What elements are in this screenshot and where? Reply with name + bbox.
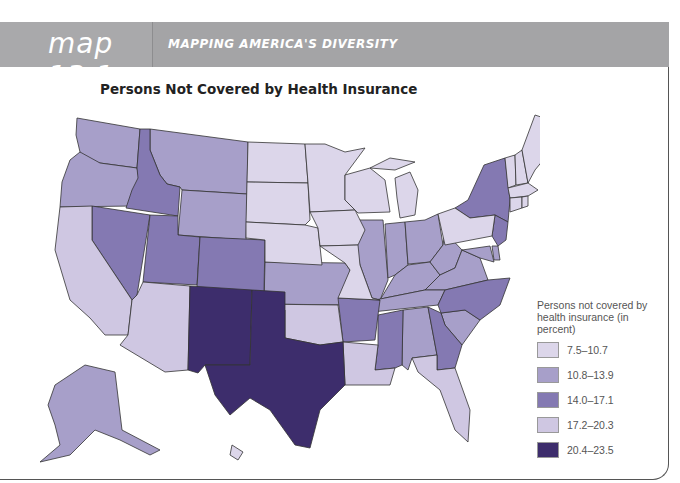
legend-swatch	[537, 442, 559, 458]
legend-swatch	[537, 392, 559, 408]
legend-item: 20.4–23.5	[537, 440, 667, 460]
legend-item: 14.0–17.1	[537, 390, 667, 410]
state-hi	[230, 445, 243, 460]
legend-label: 14.0–17.1	[567, 394, 614, 406]
legend-item: 7.5–10.7	[537, 340, 667, 360]
state-ar	[338, 298, 380, 342]
legend-swatch	[537, 342, 559, 358]
legend-label: 7.5–10.7	[567, 344, 608, 356]
legend-swatch	[537, 367, 559, 383]
map-banner: map 13.1 MAPPING AMERICA'S DIVERSITY	[0, 22, 669, 67]
state-wy	[178, 190, 247, 240]
map-legend: Persons not covered by health insurance …	[537, 299, 667, 460]
legend-label: 17.2–20.3	[567, 419, 614, 431]
state-sd	[246, 182, 310, 225]
state-ri	[522, 196, 528, 208]
legend-swatch	[537, 417, 559, 433]
state-wi	[345, 168, 390, 213]
map-number-box: map 13.1	[0, 22, 153, 67]
state-ak	[40, 365, 160, 462]
legend-item: 17.2–20.3	[537, 415, 667, 435]
map-title: Persons Not Covered by Health Insurance	[100, 81, 417, 97]
state-nd	[247, 142, 308, 183]
state-ct	[510, 197, 522, 212]
legend-title: Persons not covered by health insurance …	[537, 299, 667, 335]
legend-label: 20.4–23.5	[567, 444, 614, 456]
state-co	[197, 237, 265, 292]
series-title: MAPPING AMERICA'S DIVERSITY	[168, 37, 398, 51]
us-choropleth-map	[0, 100, 540, 480]
state-ms	[375, 310, 403, 370]
state-ny	[455, 158, 510, 222]
state-nm	[188, 286, 252, 373]
legend-item: 10.8–13.9	[537, 365, 667, 385]
legend-label: 10.8–13.9	[567, 369, 614, 381]
